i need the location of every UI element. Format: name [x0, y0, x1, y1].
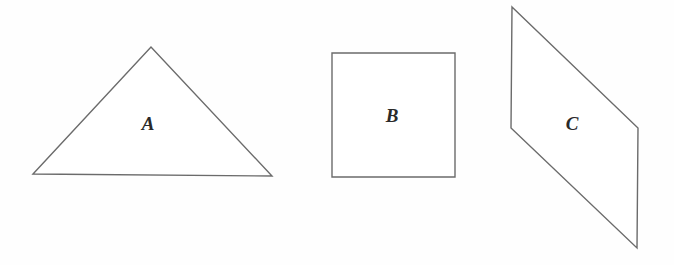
shape-label-b: B: [386, 105, 399, 127]
geometry-figure-canvas: A B C: [0, 0, 674, 265]
triangle-shape-a: [33, 47, 272, 176]
shape-label-a: A: [142, 113, 155, 135]
shape-label-c: C: [566, 113, 579, 135]
